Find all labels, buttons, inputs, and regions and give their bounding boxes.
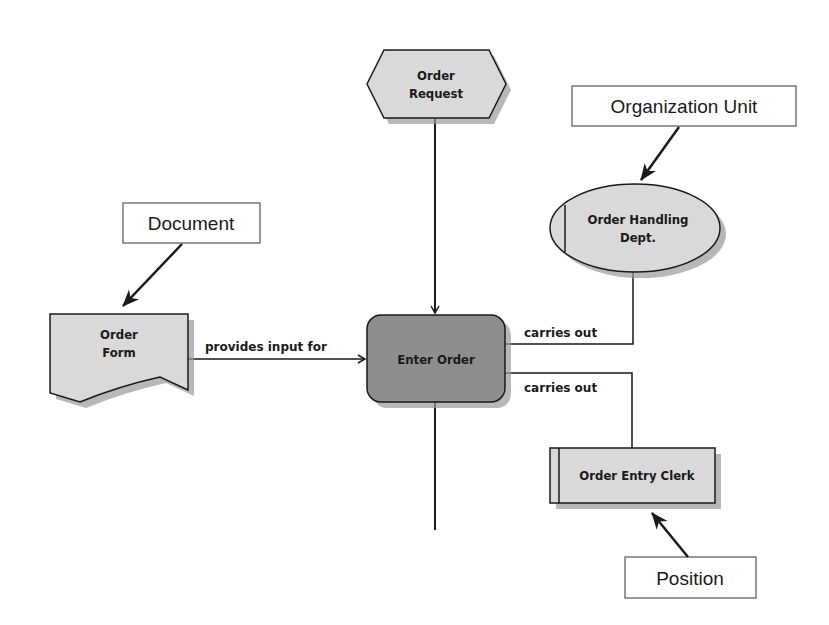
document-label-line1: Order — [100, 327, 138, 342]
edge-label-provides-input-for: provides input for — [205, 340, 327, 354]
callout-position-text: Position — [656, 568, 724, 589]
event-label-line2: Request — [409, 86, 464, 101]
event-order-request[interactable]: Order Request — [367, 50, 511, 124]
function-label: Enter Order — [397, 352, 475, 367]
position-order-entry-clerk[interactable]: Order Entry Clerk — [550, 448, 721, 509]
callout-position: Position — [625, 513, 756, 598]
edge-label-carries-out-position: carries out — [524, 381, 597, 395]
arrow-icon — [641, 127, 679, 180]
callout-document-text: Document — [148, 213, 235, 234]
org-unit-order-handling-dept[interactable]: Order Handling Dept. — [550, 184, 726, 278]
org-unit-label-line1: Order Handling — [588, 212, 689, 227]
function-enter-order[interactable]: Enter Order — [367, 315, 511, 408]
callout-organization-unit-text: Organization Unit — [611, 96, 759, 117]
edge-label-carries-out-org: carries out — [524, 326, 597, 340]
document-order-form[interactable]: Order Form — [50, 314, 194, 408]
epc-diagram: Order Request Enter Order Order Handling… — [0, 0, 829, 625]
callout-document: Document — [123, 203, 260, 306]
org-unit-label-line2: Dept. — [620, 230, 656, 245]
event-label-line1: Order — [417, 68, 455, 83]
position-label: Order Entry Clerk — [579, 468, 695, 483]
event-hexagon-shape — [367, 50, 506, 118]
callout-organization-unit: Organization Unit — [572, 86, 796, 180]
org-unit-ellipse-shape — [550, 184, 720, 272]
document-label-line2: Form — [102, 345, 135, 360]
arrow-icon — [123, 244, 182, 306]
arrow-icon — [652, 513, 688, 557]
